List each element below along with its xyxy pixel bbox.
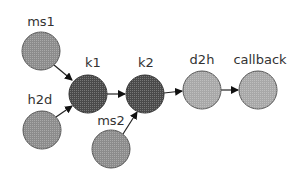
node-label-h2d: h2d xyxy=(28,92,53,107)
dependency-graph: ms1 h2d k1 k2 ms2 d2h callback xyxy=(0,0,295,188)
node-label-ms2: ms2 xyxy=(97,113,125,128)
node-label-callback: callback xyxy=(233,52,287,67)
node-k2: k2 xyxy=(126,55,164,113)
node-label-k1: k1 xyxy=(85,55,101,70)
edge-ms1-k1 xyxy=(54,65,72,80)
node-callback: callback xyxy=(233,52,287,109)
node-label-k2: k2 xyxy=(138,55,154,70)
node-label-d2h: d2h xyxy=(190,52,215,67)
node-d2h: d2h xyxy=(183,52,221,109)
node-h2d: h2d xyxy=(23,92,61,149)
node-ms2: ms2 xyxy=(92,113,130,168)
node-k1: k1 xyxy=(69,55,107,113)
node-ms1: ms1 xyxy=(22,14,60,70)
node-label-ms1: ms1 xyxy=(27,14,55,29)
edge-k2-d2h xyxy=(164,91,182,93)
edge-h2d-k1 xyxy=(56,106,72,117)
edge-ms2-k2 xyxy=(123,112,137,134)
